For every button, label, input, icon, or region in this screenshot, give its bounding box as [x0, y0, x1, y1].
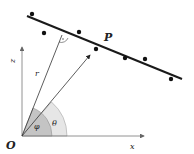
data-point: [30, 12, 34, 16]
x-axis-label: x: [130, 142, 135, 151]
phi-label: φ: [34, 122, 40, 131]
z-axis-label: z: [8, 58, 17, 64]
hough-line-diagram: P O z x r φ θ: [0, 0, 194, 154]
theta-label: θ: [52, 119, 57, 128]
data-point: [143, 57, 147, 61]
fitted-line: [27, 16, 182, 79]
data-point: [123, 56, 127, 60]
data-point: [169, 77, 173, 81]
right-angle-dot: [62, 38, 63, 39]
data-point: [42, 31, 46, 35]
r-label: r: [35, 69, 40, 78]
point-label-p: P: [103, 31, 113, 44]
data-point: [94, 47, 98, 51]
data-point: [77, 30, 81, 34]
origin-label: O: [6, 139, 16, 152]
